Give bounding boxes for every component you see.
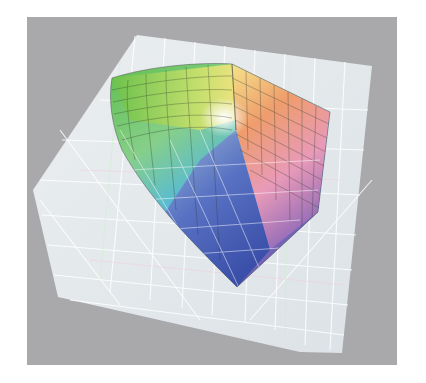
- gamut-visualization: [0, 0, 426, 383]
